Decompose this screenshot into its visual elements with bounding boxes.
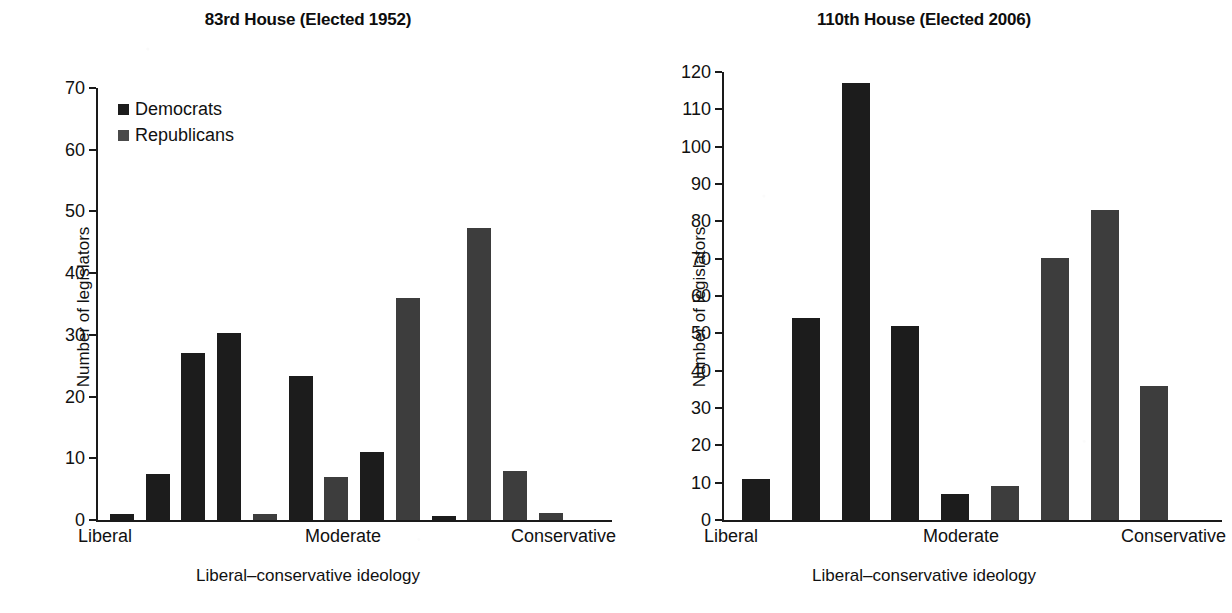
y-tick-label-10: 10 — [691, 472, 711, 493]
bar — [503, 471, 527, 520]
bar — [360, 452, 384, 520]
y-tick-label-80: 80 — [691, 211, 711, 232]
y-tick-label-50: 50 — [65, 201, 85, 222]
bar — [1091, 210, 1119, 520]
legend-item-republicans: Republicans — [118, 122, 234, 148]
y-tick-40 — [89, 272, 96, 274]
bar — [991, 486, 1019, 520]
y-tick-label-30: 30 — [691, 398, 711, 419]
y-tick-label-10: 10 — [65, 448, 85, 469]
bar — [289, 376, 313, 520]
bar — [396, 298, 420, 520]
y-tick-90 — [715, 183, 722, 185]
x-axis-title-right: Liberal–conservative ideology — [616, 566, 1232, 586]
y-tick-30 — [89, 334, 96, 336]
y-tick-120 — [715, 71, 722, 73]
legend-label-republicans: Republicans — [135, 122, 234, 148]
plot-area-left: Liberal Moderate Conservative 0102030405… — [96, 88, 590, 520]
x-axis-line-left — [96, 520, 612, 522]
y-tick-label-20: 20 — [65, 386, 85, 407]
y-tick-50 — [715, 332, 722, 334]
bar-group-left — [96, 88, 590, 520]
y-tick-label-90: 90 — [691, 174, 711, 195]
y-tick-100 — [715, 146, 722, 148]
y-tick-label-50: 50 — [691, 323, 711, 344]
y-tick-0 — [89, 519, 96, 521]
y-tick-70 — [715, 258, 722, 260]
y-tick-label-110: 110 — [682, 99, 711, 120]
bar — [1140, 386, 1168, 520]
bar — [110, 514, 134, 520]
y-tick-10 — [715, 482, 722, 484]
y-tick-60 — [89, 149, 96, 151]
y-tick-40 — [715, 370, 722, 372]
y-tick-label-60: 60 — [65, 139, 85, 160]
bar — [742, 479, 770, 520]
y-tick-label-70: 70 — [691, 248, 711, 269]
y-tick-60 — [715, 295, 722, 297]
y-tick-label-0: 0 — [701, 510, 711, 531]
y-tick-label-30: 30 — [65, 324, 85, 345]
y-tick-label-60: 60 — [691, 286, 711, 307]
chart-title-right: 110th House (Elected 2006) — [616, 10, 1232, 30]
y-tick-30 — [715, 407, 722, 409]
y-tick-0 — [715, 519, 722, 521]
x-tick-label-moderate-left: Moderate — [305, 526, 381, 547]
legend-swatch-democrats-icon — [118, 104, 129, 115]
y-tick-50 — [89, 210, 96, 212]
bar — [842, 83, 870, 520]
figure-root: 83rd House (Elected 1952) Number of legi… — [0, 0, 1232, 613]
y-tick-20 — [715, 444, 722, 446]
chart-title-left: 83rd House (Elected 1952) — [0, 10, 616, 30]
bar — [181, 353, 205, 520]
bar — [253, 514, 277, 520]
legend-label-democrats: Democrats — [135, 96, 222, 122]
y-tick-10 — [89, 457, 96, 459]
x-axis-title-left: Liberal–conservative ideology — [0, 566, 616, 586]
y-tick-70 — [89, 87, 96, 89]
x-tick-label-conservative-left: Conservative — [511, 526, 616, 547]
x-tick-label-moderate-right: Moderate — [923, 526, 999, 547]
chart-panel-110th: 110th House (Elected 2006) Number of leg… — [616, 0, 1232, 613]
y-tick-110 — [715, 108, 722, 110]
legend-item-democrats: Democrats — [118, 96, 234, 122]
y-tick-label-40: 40 — [65, 263, 85, 284]
x-axis-line-right — [722, 520, 1222, 522]
y-tick-label-0: 0 — [75, 510, 85, 531]
y-tick-label-70: 70 — [65, 78, 85, 99]
bar — [217, 333, 241, 520]
bar — [891, 326, 919, 520]
y-tick-label-40: 40 — [691, 360, 711, 381]
y-axis-title-left: Number of legislators — [74, 226, 94, 387]
x-tick-label-liberal-right: Liberal — [704, 526, 758, 547]
legend-swatch-republicans-icon — [118, 130, 129, 141]
bar — [432, 516, 456, 520]
legend-left: Democrats Republicans — [118, 96, 234, 148]
bar — [792, 318, 820, 520]
bar — [941, 494, 969, 520]
y-tick-label-100: 100 — [681, 136, 711, 157]
bar-group-right — [722, 72, 1200, 520]
bar — [146, 474, 170, 520]
bar — [1041, 258, 1069, 520]
x-tick-label-conservative-right: Conservative — [1121, 526, 1226, 547]
bar — [467, 228, 491, 520]
x-tick-label-liberal-left: Liberal — [78, 526, 132, 547]
bar — [539, 513, 563, 520]
y-tick-80 — [715, 220, 722, 222]
y-tick-label-20: 20 — [691, 435, 711, 456]
bar — [324, 477, 348, 520]
plot-area-right: Liberal Moderate Conservative 0102030405… — [722, 72, 1200, 520]
chart-panel-83rd: 83rd House (Elected 1952) Number of legi… — [0, 0, 616, 613]
y-tick-20 — [89, 396, 96, 398]
y-tick-label-120: 120 — [681, 62, 711, 83]
